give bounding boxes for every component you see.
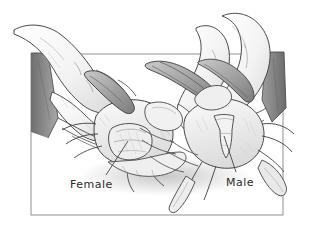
crab-illustration bbox=[0, 0, 316, 231]
label-female: Female bbox=[70, 178, 113, 191]
label-male: Male bbox=[226, 176, 254, 189]
illustration-canvas: Female Male bbox=[0, 0, 316, 231]
